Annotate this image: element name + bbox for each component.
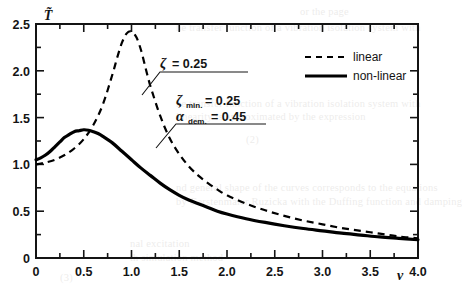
y-tick-label: 0	[23, 252, 30, 266]
legend-label-non-linear: non-linear	[353, 69, 406, 83]
y-tick-label: 1.0	[13, 158, 30, 172]
alpha-dem-annotation-symbol: α	[176, 108, 185, 124]
legend-item-non-linear: non-linear	[305, 69, 406, 83]
x-tick-label: 0.5	[75, 265, 92, 279]
legend-label-linear: linear	[353, 50, 382, 64]
y-axis-label-text: T̃	[44, 6, 54, 23]
x-tick-label: 3.0	[314, 265, 331, 279]
zeta-min-annotation-symbol: ζ	[176, 92, 183, 108]
x-tick-label: 2.5	[266, 265, 283, 279]
y-axis-label: T̃	[44, 6, 54, 23]
zeta-annotation-symbol: ζ	[160, 55, 167, 71]
legend-item-linear: linear	[305, 50, 382, 64]
y-tick-label: 1.5	[13, 112, 30, 126]
y-axis-tick-labels: 00.51.01.52.02.5	[13, 18, 30, 266]
chart-legend: linear non-linear	[305, 50, 406, 83]
y-tick-label: 2.0	[13, 65, 30, 79]
zeta-min-alpha-dem-annotation: ζ min. = 0.25 α dem. = 0.45	[156, 92, 266, 148]
x-tick-label: 4.0	[409, 265, 426, 279]
x-tick-label: 2.0	[218, 265, 235, 279]
zeta-annotation-leader	[142, 72, 248, 95]
zeta-min-annotation-value: = 0.25	[205, 94, 240, 108]
x-tick-label: 3.5	[362, 265, 379, 279]
alpha-dem-annotation-subscript: dem.	[188, 117, 207, 126]
alpha-dem-annotation-value: = 0.45	[211, 110, 246, 124]
zeta-min-annotation-subscript: min.	[186, 101, 202, 110]
zeta-annotation-value: = 0.25	[172, 57, 207, 71]
series-line-non-linear	[36, 130, 418, 240]
y-tick-label: 0.5	[13, 205, 30, 219]
zeta-annotation: ζ = 0.25	[142, 55, 248, 95]
x-axis-label: ν	[397, 268, 404, 283]
x-tick-label: 1.0	[123, 265, 140, 279]
x-tick-label: 0	[33, 265, 40, 279]
x-tick-label: 1.5	[171, 265, 188, 279]
x-axis-tick-labels: 00.51.01.52.02.53.03.54.0	[33, 265, 427, 279]
y-tick-label: 2.5	[13, 18, 30, 32]
zeta-min-annotation-leader	[156, 124, 266, 148]
